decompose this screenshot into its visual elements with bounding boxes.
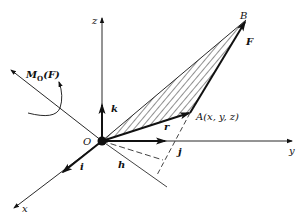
- moment-arm-dashed: [102, 141, 163, 160]
- reference-line: [102, 141, 167, 187]
- point-A-label: A(x, y, z): [195, 111, 239, 122]
- moment-axis-line: [11, 70, 102, 141]
- moment-diagram: z y x MO(F) h r F k j i O A(x, y, z) B: [0, 0, 304, 222]
- y-axis-label: y: [288, 145, 295, 156]
- origin-label: O: [83, 136, 91, 147]
- r-label: r: [164, 121, 170, 132]
- point-B-label: B: [239, 10, 247, 21]
- z-axis-label: z: [91, 15, 98, 26]
- x-axis-label: x: [22, 203, 28, 214]
- moment-label: MO(F): [25, 69, 60, 83]
- F-label: F: [245, 36, 254, 47]
- triangle-edge-OB: [102, 20, 246, 141]
- j-label: j: [176, 146, 182, 157]
- origin-point: [98, 137, 107, 146]
- arm-label: h: [118, 159, 125, 170]
- k-label: k: [111, 103, 118, 114]
- i-label: i: [80, 161, 84, 172]
